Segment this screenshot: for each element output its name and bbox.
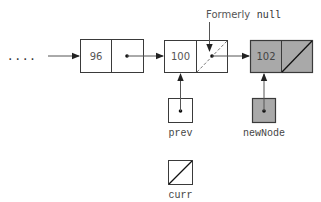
svg-text:....: .... bbox=[8, 47, 38, 63]
reference-label: newNode bbox=[243, 128, 285, 139]
node-value: 100 bbox=[171, 51, 190, 62]
ellipsis: .... bbox=[8, 47, 38, 63]
node-102: 102 bbox=[251, 41, 313, 73]
linked-list-diagram: .... 96 100 Formerly null 102 bbox=[0, 0, 321, 202]
reference-label: curr bbox=[168, 190, 192, 201]
newnode-reference: newNode bbox=[243, 74, 285, 139]
reference-label: prev bbox=[168, 128, 192, 139]
curr-reference: curr bbox=[168, 161, 192, 202]
node-value: 96 bbox=[90, 51, 103, 62]
svg-text:Formerly null: Formerly null bbox=[206, 9, 281, 21]
node-value: 102 bbox=[256, 51, 275, 62]
prev-reference: prev bbox=[168, 74, 192, 139]
